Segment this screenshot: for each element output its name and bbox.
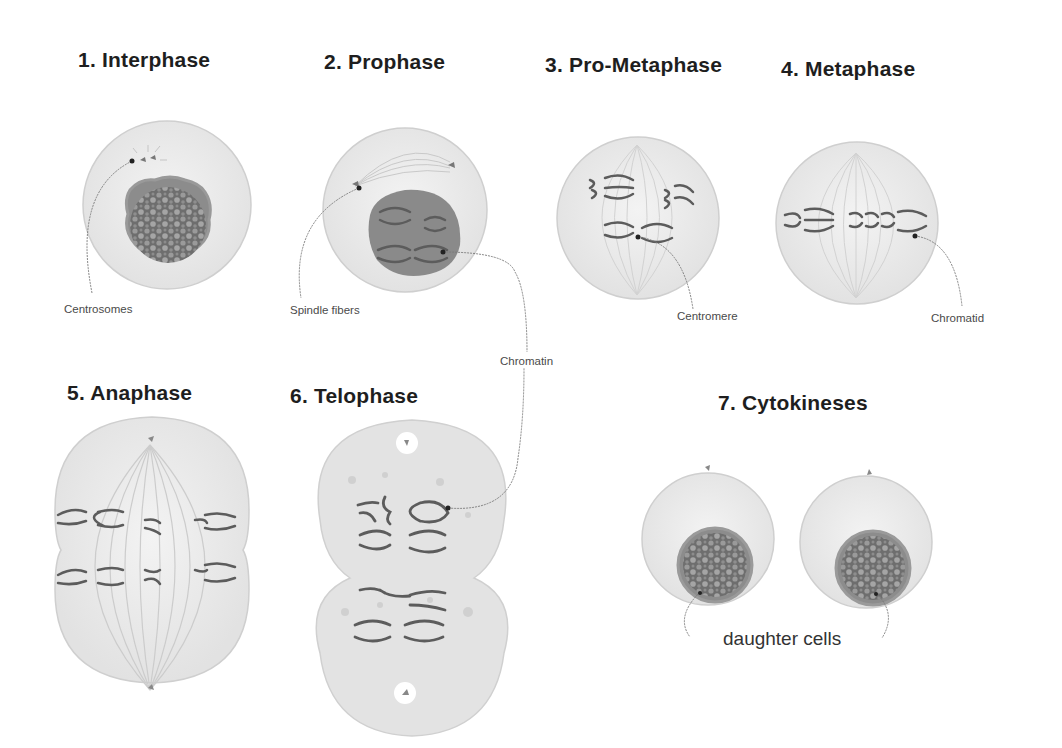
stage-title-telophase: 6. Telophase [290, 384, 418, 408]
telophase-cell [316, 420, 508, 736]
metaphase-cell [776, 142, 938, 304]
interphase-cell [83, 121, 251, 289]
stage-title-interphase: 1. Interphase [78, 48, 210, 72]
nucleus [369, 190, 461, 276]
daughter-cell-right [800, 469, 932, 608]
anaphase-cell [55, 417, 249, 690]
stage-title-metaphase: 4. Metaphase [781, 57, 915, 81]
daughter-cell-left [642, 465, 774, 605]
stage-title-prometaphase: 3. Pro-Metaphase [545, 53, 722, 77]
stage-title-prophase: 2. Prophase [324, 50, 445, 74]
label-daughter-cells: daughter cells [723, 628, 841, 650]
stage-title-cytokinesis: 7. Cytokineses [718, 391, 868, 415]
prometaphase-cell [557, 137, 719, 299]
mitosis-diagram [0, 0, 1062, 748]
label-chromatid: Chromatid [931, 312, 984, 324]
prophase-cell [323, 128, 487, 292]
stage-title-anaphase: 5. Anaphase [67, 381, 192, 405]
label-chromatin: Chromatin [500, 355, 553, 367]
label-centromere: Centromere [677, 310, 738, 322]
label-spindle-fibers: Spindle fibers [290, 304, 360, 316]
label-centrosomes: Centrosomes [64, 303, 132, 315]
